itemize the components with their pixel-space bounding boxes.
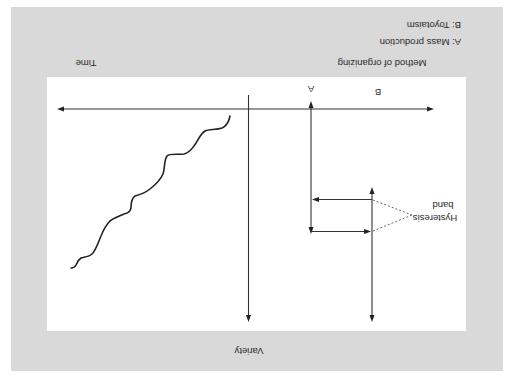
method-axis-label: Method of organizing: [338, 58, 427, 69]
marker-a-label: A: [307, 84, 314, 95]
hysteresis-label-line1: Hysteresis: [413, 213, 458, 224]
hysteresis-label-line2: band: [432, 200, 453, 211]
legend-a: A: Mass production: [380, 37, 461, 48]
marker-b-label: B: [375, 87, 381, 98]
figure-container: Time Method of organizing A: Mass produc…: [0, 0, 511, 379]
time-axis-label: Time: [76, 58, 97, 69]
legend-b: B: Toyotaism: [407, 20, 461, 31]
hysteresis-diagram: Time Method of organizing A: Mass produc…: [0, 0, 511, 379]
plot-area: [47, 77, 466, 331]
variety-axis-label: Variety: [234, 346, 263, 357]
